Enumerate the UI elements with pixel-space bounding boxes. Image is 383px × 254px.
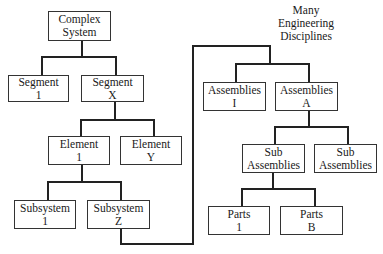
node-label-line2: B	[308, 221, 316, 234]
connector	[80, 119, 82, 136]
connector	[314, 188, 316, 206]
connector	[114, 101, 116, 121]
node-label-line1: Subsystem	[94, 202, 144, 215]
node-label-line2: Assemblies	[319, 159, 372, 172]
node-label-line1: Subsystem	[20, 202, 70, 215]
node-label-line2: 1	[236, 221, 242, 234]
node-label-line2: 1	[76, 151, 82, 164]
node-parts-b: Parts B	[280, 206, 343, 235]
node-complex-system: Complex System	[48, 11, 111, 41]
many-engineering-disciplines-label: Many Engineering Disciplines	[268, 4, 344, 43]
node-label-line1: Parts	[300, 208, 323, 221]
node-label-line1: Element	[132, 138, 170, 151]
hierarchy-diagram: Complex System Segment 1 Segment X Eleme…	[0, 0, 383, 254]
node-label-line2: System	[63, 26, 97, 39]
connector	[274, 126, 349, 128]
node-sub-assemblies-2: Sub Assemblies	[314, 144, 377, 173]
node-label-line2: A	[302, 97, 310, 110]
bridge-connector	[120, 243, 194, 245]
connector	[241, 188, 243, 206]
connector	[41, 56, 117, 58]
node-element-y: Element Y	[120, 136, 182, 165]
node-assemblies-a: Assemblies A	[275, 82, 338, 111]
node-label-line2: Y	[147, 151, 155, 164]
node-label-line1: Sub	[265, 146, 283, 159]
node-label-line2: Z	[115, 215, 122, 228]
connector	[47, 181, 49, 200]
connector	[269, 45, 271, 65]
node-label-line2: Assemblies	[247, 159, 300, 172]
node-sub-assemblies-1: Sub Assemblies	[242, 144, 305, 173]
connector	[308, 63, 310, 82]
connector	[241, 188, 316, 190]
node-subsystem-1: Subsystem 1	[14, 200, 76, 229]
connector	[115, 56, 117, 75]
node-label-line1: Parts	[228, 208, 251, 221]
node-label-line2: I	[233, 97, 237, 110]
node-subsystem-z: Subsystem Z	[87, 200, 150, 229]
node-label-line2: 1	[36, 89, 42, 102]
node-label-line1: Segment	[18, 76, 58, 89]
node-parts-1: Parts 1	[208, 206, 270, 235]
node-label-line2: 1	[42, 215, 48, 228]
node-segment-x: Segment X	[81, 75, 144, 102]
node-label-line2: X	[108, 89, 116, 102]
node-segment-1: Segment 1	[8, 75, 69, 102]
node-label-line1: Assemblies	[208, 84, 261, 97]
node-label-line1: Complex	[58, 13, 100, 26]
connector	[80, 119, 155, 121]
bridge-connector	[192, 45, 271, 47]
node-label-line1: Sub	[337, 146, 355, 159]
connector	[120, 181, 122, 200]
node-assemblies-i: Assemblies I	[203, 82, 266, 111]
connector	[274, 126, 276, 144]
connector	[235, 63, 310, 65]
connector	[235, 63, 237, 82]
node-element-1: Element 1	[48, 136, 110, 165]
node-label-line1: Element	[60, 138, 98, 151]
connector	[153, 119, 155, 136]
node-label-line1: Segment	[92, 76, 132, 89]
node-label-line1: Assemblies	[280, 84, 333, 97]
connector	[347, 126, 349, 144]
connector	[47, 181, 122, 183]
bridge-connector	[192, 45, 194, 245]
connector	[41, 56, 43, 75]
